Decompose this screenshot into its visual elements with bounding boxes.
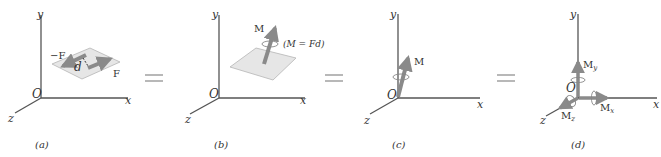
caption-c: (c) — [392, 139, 406, 150]
force-label: F — [113, 68, 120, 79]
z-label: z — [539, 114, 546, 127]
equals-sign-1 — [145, 75, 163, 81]
z-label: z — [184, 113, 191, 126]
x-label: x — [477, 98, 484, 111]
caption-d: (d) — [571, 139, 585, 150]
plane — [230, 48, 296, 80]
x-label: x — [125, 94, 132, 107]
panel-b: y x z O M (M = Fd) (b) — [184, 8, 325, 150]
panel-a: y x z O −F F d (a) — [7, 8, 132, 150]
caption-a: (a) — [35, 139, 49, 150]
equation-label: (M = Fd) — [283, 39, 325, 49]
mx-label: Mx — [600, 102, 614, 115]
panel-d: y x z O My Mx Mz (d) — [539, 8, 660, 150]
x-label: x — [653, 98, 660, 111]
distance-label: d — [74, 60, 82, 74]
moment-label: M — [254, 23, 264, 34]
origin-label: O — [209, 87, 219, 101]
caption-b: (b) — [214, 139, 228, 150]
my-label: My — [583, 59, 598, 72]
mz-label: Mz — [561, 110, 575, 123]
equals-sign-3 — [497, 75, 515, 81]
moment-label: M — [414, 56, 424, 67]
origin-label: O — [387, 88, 397, 102]
equals-sign-2 — [325, 75, 343, 81]
panel-c: y x z O M (c) — [363, 8, 484, 150]
y-label: y — [211, 8, 219, 21]
neg-force-label: −F — [50, 50, 65, 61]
axes — [546, 14, 657, 116]
x-label: x — [300, 94, 307, 107]
origin-label: O — [32, 87, 42, 101]
y-label: y — [569, 8, 577, 21]
origin-label: O — [566, 81, 576, 95]
couple-moment-diagram: y x z O −F F d (a) y x z O M (M = Fd) (b… — [0, 0, 661, 157]
y-label: y — [36, 8, 44, 21]
z-label: z — [363, 114, 370, 127]
y-label: y — [389, 8, 397, 21]
moment-arrow — [398, 58, 408, 97]
z-label: z — [7, 112, 14, 125]
